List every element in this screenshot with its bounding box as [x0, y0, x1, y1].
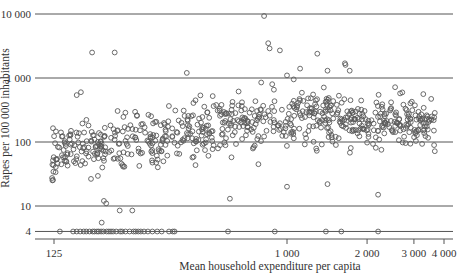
- data-point: [339, 100, 344, 105]
- data-point: [236, 89, 241, 94]
- data-point: [315, 97, 320, 102]
- y-tick-label: 4: [26, 225, 32, 237]
- data-point: [334, 143, 339, 148]
- data-point: [198, 93, 203, 98]
- data-point: [432, 143, 437, 148]
- data-point: [117, 208, 122, 213]
- data-points: [50, 14, 438, 234]
- data-point: [264, 128, 269, 133]
- data-point: [298, 66, 303, 71]
- data-point: [100, 165, 105, 170]
- data-point: [373, 110, 378, 115]
- x-ticks: 1251 0002 0003 0004 000: [46, 239, 457, 259]
- data-point: [223, 143, 228, 148]
- data-point: [52, 134, 57, 139]
- data-point: [173, 108, 178, 113]
- data-point: [432, 128, 437, 133]
- data-point: [305, 103, 310, 108]
- data-point: [325, 68, 330, 73]
- data-point: [259, 80, 264, 85]
- data-point: [262, 134, 267, 139]
- data-point: [321, 85, 326, 90]
- data-point: [206, 153, 211, 158]
- data-point: [337, 93, 342, 98]
- data-point: [207, 115, 212, 120]
- data-point: [184, 71, 189, 76]
- data-point: [115, 109, 120, 114]
- data-point: [393, 85, 398, 90]
- data-point: [421, 105, 426, 110]
- data-point: [99, 220, 104, 225]
- data-point: [272, 99, 277, 104]
- data-point: [137, 164, 142, 169]
- data-point: [319, 125, 324, 130]
- data-point: [226, 127, 231, 132]
- data-point: [165, 153, 170, 158]
- data-point: [89, 177, 94, 182]
- data-point: [336, 136, 341, 141]
- data-point: [376, 92, 381, 97]
- x-tick-label: 4 000: [432, 247, 457, 259]
- data-point: [302, 142, 307, 147]
- data-point: [69, 128, 74, 133]
- x-axis-label: Mean household expenditure per capita: [179, 260, 360, 273]
- data-point: [319, 142, 324, 147]
- data-point: [112, 50, 117, 55]
- data-point: [365, 140, 370, 145]
- data-point: [143, 130, 148, 135]
- data-point: [429, 97, 434, 102]
- data-point: [262, 112, 267, 117]
- data-point: [401, 102, 406, 107]
- data-point: [376, 192, 381, 197]
- data-point: [229, 155, 234, 160]
- data-point: [220, 126, 225, 131]
- data-point: [92, 157, 97, 162]
- data-point: [80, 121, 85, 126]
- data-point: [96, 174, 101, 179]
- data-point: [136, 146, 141, 151]
- data-point: [202, 104, 207, 109]
- data-point: [150, 148, 155, 153]
- data-point: [325, 182, 330, 187]
- x-tick-label: 125: [46, 247, 63, 259]
- data-point: [300, 90, 305, 95]
- data-point: [432, 149, 437, 154]
- data-point: [347, 68, 352, 73]
- data-point: [123, 110, 128, 115]
- data-point: [68, 152, 73, 157]
- data-point: [54, 129, 59, 134]
- data-point: [297, 126, 302, 131]
- scatter-chart: 4101001 00010 000 1251 0002 0003 0004 00…: [0, 0, 459, 274]
- data-point: [86, 123, 91, 128]
- data-point: [193, 163, 198, 168]
- data-point: [379, 147, 384, 152]
- data-point: [285, 73, 290, 78]
- data-point: [256, 162, 261, 167]
- data-point: [331, 116, 336, 121]
- data-point: [421, 92, 426, 97]
- data-point: [155, 165, 160, 170]
- data-point: [286, 111, 291, 116]
- data-point: [181, 108, 186, 113]
- data-point: [402, 134, 407, 139]
- data-point: [84, 118, 89, 123]
- data-point: [90, 50, 95, 55]
- data-point: [194, 148, 199, 153]
- data-point: [266, 41, 271, 46]
- x-tick-label: 1 000: [275, 247, 300, 259]
- data-point: [278, 48, 283, 53]
- data-point: [382, 131, 387, 136]
- y-axis-label: Rapes per 100 000 inhabitants: [0, 48, 12, 188]
- data-point: [51, 126, 56, 131]
- data-point: [130, 208, 135, 213]
- data-point: [79, 90, 84, 95]
- y-tick-label: 10 000: [1, 8, 32, 20]
- data-point: [280, 107, 285, 112]
- data-point: [285, 184, 290, 189]
- data-point: [82, 130, 87, 135]
- data-point: [272, 87, 277, 92]
- data-point: [270, 82, 275, 87]
- data-point: [315, 51, 320, 56]
- data-point: [267, 46, 272, 51]
- data-point: [253, 99, 258, 104]
